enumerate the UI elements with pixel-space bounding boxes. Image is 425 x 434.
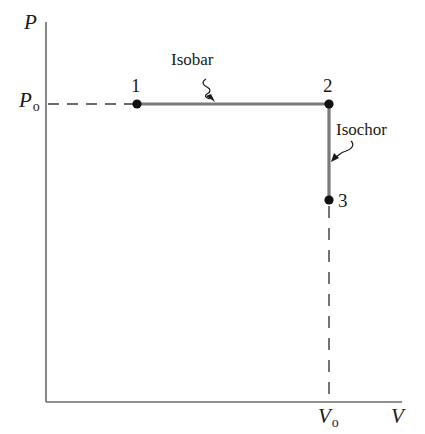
point-1-label: 1 (131, 76, 141, 95)
point-3-label: 3 (338, 191, 348, 210)
isobar-pointer-arrow-icon (203, 79, 215, 102)
v0-reference-label: Vo (318, 406, 339, 427)
p0-subscript: o (33, 99, 40, 114)
v0-symbol: V (318, 404, 331, 428)
p0-reference-label: Po (19, 90, 40, 111)
p0-symbol: P (19, 88, 32, 112)
isochor-label: Isochor (336, 121, 387, 138)
isochor-pointer-arrow-icon (331, 141, 353, 162)
x-axis-label: V (391, 406, 404, 427)
isobar-label: Isobar (171, 51, 213, 68)
point-1-marker (132, 99, 141, 108)
y-axis-label: P (24, 12, 37, 33)
point-2-label: 2 (323, 76, 333, 95)
point-2-marker (324, 99, 333, 108)
v0-subscript: o (332, 415, 339, 430)
point-3-marker (324, 195, 333, 204)
